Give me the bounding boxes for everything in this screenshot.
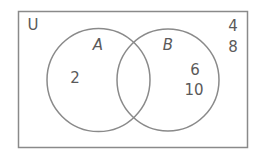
set-b-element: 6: [190, 63, 200, 78]
set-b-element: 10: [184, 83, 203, 98]
outside-element: 4: [228, 19, 238, 34]
venn-diagram: [0, 0, 258, 157]
universal-set-rectangle: [19, 12, 248, 148]
outside-element: 8: [228, 40, 238, 55]
universal-set-label: U: [28, 18, 39, 33]
set-a-label: A: [93, 38, 103, 53]
set-a-element: 2: [70, 71, 80, 86]
set-b-label: B: [163, 38, 173, 53]
